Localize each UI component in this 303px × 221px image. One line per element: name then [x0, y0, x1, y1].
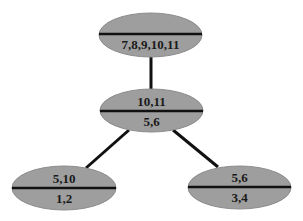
node-bottom-label: 1,2	[56, 191, 72, 206]
node-bottom-label: 3,4	[231, 190, 248, 205]
edge-middle-left	[86, 130, 129, 168]
node-top-label: 5,10	[53, 171, 76, 186]
node-root: 7,8,9,10,11	[99, 13, 202, 57]
node-left: 5,10 1,2	[12, 166, 116, 210]
node-bottom-label: 5,6	[143, 114, 160, 129]
node-middle: 10,11 5,6	[100, 89, 203, 132]
node-top-label: 10,11	[137, 94, 166, 109]
node-bottom-label: 7,8,9,10,11	[122, 37, 180, 52]
node-right: 5,6 3,4	[188, 166, 291, 209]
node-top-label: 5,6	[231, 170, 248, 185]
edge-middle-right	[173, 130, 218, 167]
nodes-group: 7,8,9,10,11 10,11 5,6 5,10 1,2 5,6 3,4	[12, 13, 291, 210]
tree-diagram: 7,8,9,10,11 10,11 5,6 5,10 1,2 5,6 3,4	[0, 0, 303, 221]
